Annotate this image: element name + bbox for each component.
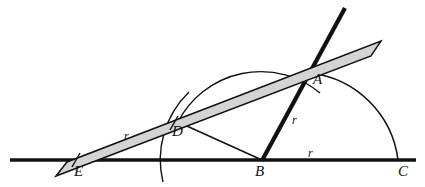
geometry-figure-canvas: A B C D E r r r — [0, 0, 425, 187]
segment-D-B — [178, 122, 262, 160]
construction-drawing — [0, 0, 425, 187]
radius-label-on-line-ba: r — [292, 114, 297, 126]
point-label-A: A — [313, 72, 322, 87]
point-label-B: B — [255, 164, 264, 179]
arc-A-to-C — [310, 73, 398, 160]
radius-label-on-baseline: r — [308, 147, 313, 159]
point-label-E: E — [74, 164, 83, 179]
straightedge-ruler — [56, 41, 381, 176]
point-label-C: C — [398, 164, 408, 179]
radius-label-on-ruler: r — [124, 130, 129, 142]
point-label-D: D — [172, 124, 183, 139]
